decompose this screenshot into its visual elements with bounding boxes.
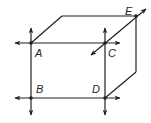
edge-a-top-back [31,16,62,43]
point-b [29,96,33,100]
edge-d-bottom-back [105,72,136,98]
point-e [134,14,138,18]
prism-edges [31,16,136,98]
label-d: D [92,83,100,95]
prism-diagram: A C B D E [0,0,151,123]
point-c [103,41,107,45]
label-b: B [36,83,43,95]
point-d [103,96,107,100]
label-c: C [108,47,116,59]
label-e: E [125,5,133,17]
point-a [29,41,33,45]
label-a: A [34,47,42,59]
